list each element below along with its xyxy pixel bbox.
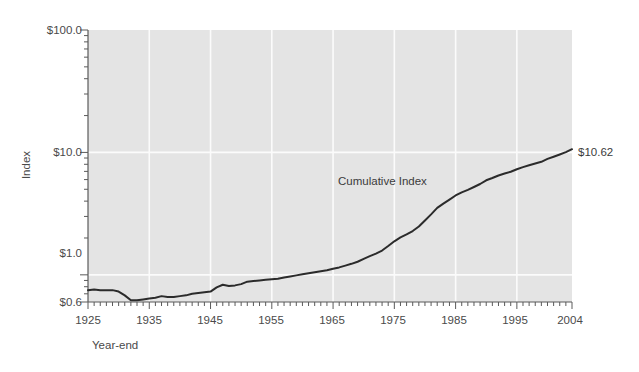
x-axis-title: Year-end [92,339,138,351]
cumulative-index-chart: $100.0 $10.0 $1.0 $0.6 1925 1935 1945 19… [0,0,639,372]
x-tick-label-1935: 1935 [136,314,162,326]
end-value-label: $10.62 [578,146,613,158]
x-tick-label-1975: 1975 [380,314,406,326]
y-tick-label-1: $1.0 [60,247,82,259]
x-tick-label-2004: 2004 [557,314,583,326]
x-tick-label-1955: 1955 [258,314,284,326]
y-axis-title: Index [20,151,32,179]
x-tick-label-1965: 1965 [319,314,345,326]
chart-figure: $100.0 $10.0 $1.0 $0.6 1925 1935 1945 19… [0,0,639,372]
x-axis-ticks [88,302,572,309]
y-tick-label-10: $10.0 [53,146,82,158]
x-tick-label-1945: 1945 [197,314,223,326]
y-axis-ticks [80,30,88,302]
y-tick-label-0-6: $0.6 [60,296,82,308]
series-annotation-label: Cumulative Index [338,175,427,187]
x-tick-label-1995: 1995 [502,314,528,326]
plot-area-background [88,30,572,302]
x-tick-label-1925: 1925 [75,314,101,326]
y-tick-label-100: $100.0 [47,24,82,36]
x-tick-label-1985: 1985 [441,314,467,326]
